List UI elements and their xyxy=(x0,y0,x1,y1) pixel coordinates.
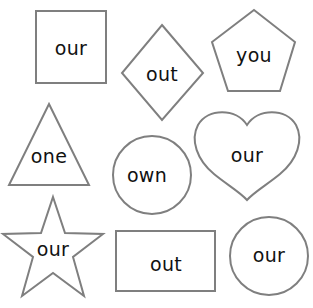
pentagon-shape: you xyxy=(212,10,295,91)
circle-shape: own xyxy=(113,136,191,214)
square-shape: our xyxy=(36,11,106,83)
pentagon-word: you xyxy=(236,44,272,66)
star-word: our xyxy=(37,238,69,260)
square-word: our xyxy=(55,37,87,59)
circle-word-2: our xyxy=(253,244,285,266)
rectangle-word: out xyxy=(150,253,182,275)
diamond-shape: out xyxy=(122,25,203,120)
triangle-shape: one xyxy=(9,104,89,185)
rectangle-shape: out xyxy=(116,231,215,291)
circle-word: own xyxy=(127,164,167,186)
triangle-word: one xyxy=(31,145,67,167)
shapes-worksheet: our out you one own our our out our xyxy=(0,0,313,308)
star-shape: our xyxy=(3,197,103,296)
heart-shape: our xyxy=(195,112,300,200)
circle-shape-2: our xyxy=(230,217,308,295)
diamond-word: out xyxy=(146,63,178,85)
heart-word: our xyxy=(231,144,263,166)
